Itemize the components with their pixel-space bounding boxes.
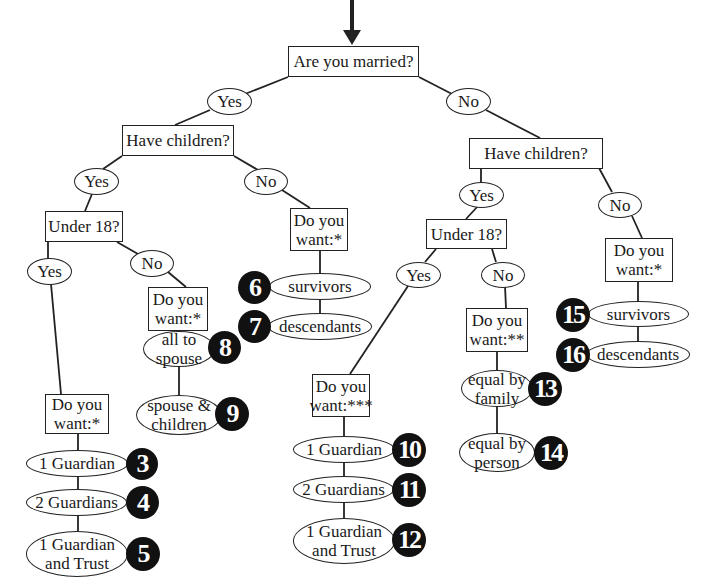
option-2-guardians: 2 Guardians xyxy=(26,489,127,516)
outcome-badge-16: 16 xyxy=(556,338,590,372)
outcome-badge-10: 10 xyxy=(392,433,426,467)
outcome-badge-7: 7 xyxy=(238,310,271,343)
question-married-no-children-want: Do you want:* xyxy=(290,208,348,251)
option-survivors-married: survivors xyxy=(269,273,371,300)
outcome-badge-6: 6 xyxy=(238,271,271,304)
outcome-badge-15: 15 xyxy=(556,298,590,332)
option-spouse-and-children: spouse & children xyxy=(136,395,222,435)
question-married-have-children: Have children? xyxy=(122,125,234,156)
question-single-under18-yes-want: Do you want:*** xyxy=(312,374,370,417)
question-married-under18-yes-want: Do you want:* xyxy=(45,394,109,434)
option-equal-by-person: equal by person xyxy=(459,433,535,472)
answer-single-children-no: No xyxy=(598,192,642,218)
arrow-head-icon xyxy=(343,30,361,45)
option-all-to-spouse: all to spouse xyxy=(143,331,215,367)
question-single-under18-no-want: Do you want:** xyxy=(466,308,528,352)
question-single-have-children: Have children? xyxy=(469,138,603,169)
outcome-badge-8: 8 xyxy=(208,331,241,364)
option-descendants-single: descendants xyxy=(586,341,690,368)
outcome-badge-13: 13 xyxy=(528,372,562,406)
question-married-under18-no-want: Do you want:* xyxy=(148,287,208,331)
question-single-under-18: Under 18? xyxy=(426,219,507,249)
outcome-badge-3: 3 xyxy=(126,448,158,480)
question-are-you-married: Are you married? xyxy=(288,46,419,77)
answer-married-under18-no: No xyxy=(130,250,174,277)
option-1-guardian: 1 Guardian xyxy=(26,450,128,477)
question-married-under-18: Under 18? xyxy=(45,211,123,242)
option-survivors-single: survivors xyxy=(588,301,689,327)
option-2-guardians-single: 2 Guardians xyxy=(293,476,394,503)
option-1-guardian-and-trust: 1 Guardian and Trust xyxy=(26,531,128,577)
answer-married-no: No xyxy=(446,88,491,115)
option-1-guardian-and-trust-single: 1 Guardian and Trust xyxy=(293,518,395,564)
option-descendants-married: descendants xyxy=(268,313,372,340)
answer-single-under18-no: No xyxy=(481,262,525,288)
answer-married-under18-yes: Yes xyxy=(27,258,72,285)
answer-married-children-no: No xyxy=(244,168,288,195)
answer-married-yes: Yes xyxy=(207,88,252,115)
outcome-badge-4: 4 xyxy=(126,486,159,519)
option-equal-by-family: equal by family xyxy=(461,370,533,407)
answer-single-children-yes: Yes xyxy=(459,182,504,208)
outcome-badge-9: 9 xyxy=(215,397,249,431)
outcome-badge-12: 12 xyxy=(392,523,426,557)
answer-single-under18-yes: Yes xyxy=(396,262,441,288)
outcome-badge-11: 11 xyxy=(392,473,426,507)
option-1-guardian-single: 1 Guardian xyxy=(293,436,395,463)
question-single-no-children-want: Do you want:* xyxy=(605,238,673,282)
outcome-badge-5: 5 xyxy=(126,537,160,571)
outcome-badge-14: 14 xyxy=(534,436,568,470)
answer-married-children-yes: Yes xyxy=(74,168,119,195)
